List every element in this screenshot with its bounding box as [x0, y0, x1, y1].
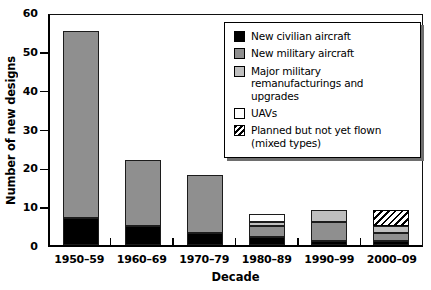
bar-segment	[311, 210, 347, 222]
legend-item: UAVs	[234, 107, 412, 119]
y-tick-label: 20	[14, 162, 38, 176]
stacked-bar-5	[311, 210, 347, 245]
bar-segment	[63, 218, 99, 245]
bar-segment	[187, 175, 223, 233]
x-axis-title: Decade	[48, 270, 423, 284]
y-tick-mark	[40, 207, 48, 209]
stacked-bar-chart-figure: Number of new designs New civilian aircr…	[0, 0, 431, 290]
legend-key-swatch-icon	[234, 125, 245, 136]
bar-segment	[249, 214, 285, 222]
legend-item: Major military remanufacturings and upgr…	[234, 65, 412, 102]
bar-segment	[125, 226, 161, 245]
x-tick-label: 1950–59	[48, 253, 111, 266]
x-tick-mark	[110, 238, 112, 245]
stacked-bar-1	[63, 31, 99, 245]
x-tick-label: 1960–69	[111, 253, 174, 266]
y-tick-label: 60	[14, 7, 38, 21]
x-tick-mark	[235, 238, 237, 245]
y-tick-mark	[40, 130, 48, 132]
x-tick-mark	[172, 238, 174, 245]
stacked-bar-3	[187, 175, 223, 245]
legend-key-swatch-icon	[234, 108, 245, 119]
y-tick-label: 10	[14, 201, 38, 215]
legend-item: New civilian aircraft	[234, 30, 412, 42]
legend-label: Planned but not yet flown (mixed types)	[251, 124, 412, 149]
y-tick-label: 50	[14, 46, 38, 60]
legend-item: New military aircraft	[234, 47, 412, 59]
x-tick-label: 1990–99	[298, 253, 361, 266]
legend-box: New civilian aircraftNew military aircra…	[224, 22, 421, 158]
x-tick-mark	[360, 238, 362, 245]
bar-slot-1	[50, 15, 112, 245]
bar-segment	[373, 210, 409, 226]
legend-label: New military aircraft	[251, 47, 354, 59]
y-tick-mark	[40, 91, 48, 93]
bar-segment	[373, 241, 409, 245]
bar-segment	[373, 226, 409, 234]
bar-segment	[249, 237, 285, 245]
legend-label: New civilian aircraft	[251, 30, 351, 42]
legend-key-swatch-icon	[234, 31, 245, 42]
legend-key-swatch-icon	[234, 66, 245, 77]
y-tick-mark	[40, 169, 48, 171]
legend-label: UAVs	[251, 107, 277, 119]
y-tick-label: 40	[14, 85, 38, 99]
stacked-bar-6	[373, 210, 409, 245]
x-tick-label: 1980–89	[236, 253, 299, 266]
bar-segment	[311, 222, 347, 241]
stacked-bar-2	[125, 160, 161, 245]
x-tick-mark	[297, 238, 299, 245]
x-tick-label: 1970–79	[173, 253, 236, 266]
bar-segment	[249, 226, 285, 238]
legend-item: Planned but not yet flown (mixed types)	[234, 124, 412, 149]
bar-segment	[311, 241, 347, 245]
x-tick-label: 2000–09	[361, 253, 424, 266]
bar-segment	[63, 31, 99, 217]
bar-segment	[125, 160, 161, 226]
bar-segment	[187, 233, 223, 245]
legend-key-swatch-icon	[234, 48, 245, 59]
y-tick-label: 30	[14, 124, 38, 138]
bar-segment	[373, 233, 409, 241]
y-tick-mark	[40, 52, 48, 54]
bar-slot-2	[112, 15, 174, 245]
y-tick-label: 0	[14, 240, 38, 254]
legend-label: Major military remanufacturings and upgr…	[251, 65, 412, 102]
stacked-bar-4	[249, 214, 285, 245]
